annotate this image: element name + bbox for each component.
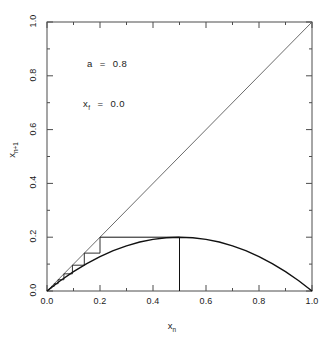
y-tick-label: 0.0 xyxy=(28,283,38,296)
x-axis-label-subscript: n xyxy=(173,326,177,333)
x-tick-label: 0.0 xyxy=(40,296,53,306)
y-tick-label: 0.6 xyxy=(28,122,38,135)
x-tick-label: 0.2 xyxy=(93,296,106,306)
annotation-a-equals: = xyxy=(96,58,110,69)
annotation-fixed-point: xf = 0.0 xyxy=(83,98,125,109)
annotation-xf-subscript: f xyxy=(88,104,90,111)
x-tick-label: 0.4 xyxy=(146,296,159,306)
annotation-xf-equals: = xyxy=(93,98,107,109)
y-tick-label: 0.2 xyxy=(28,230,38,243)
annotation-parameter-a: a = 0.8 xyxy=(87,58,127,69)
annotation-a-symbol: a xyxy=(87,58,93,69)
y-tick-label: 0.4 xyxy=(28,176,38,189)
y-axis-label-subscript: n+1 xyxy=(12,142,19,153)
x-axis-label: xn xyxy=(168,320,176,331)
y-tick-label: 1.0 xyxy=(28,14,38,27)
plot-canvas xyxy=(0,0,332,340)
annotation-a-value: 0.8 xyxy=(113,58,127,69)
y-tick-label: 0.8 xyxy=(28,68,38,81)
annotation-xf-value: 0.0 xyxy=(110,98,124,109)
cobweb-plot-figure: 0.00.20.40.60.81.0 0.00.20.40.60.81.0 xn… xyxy=(0,0,332,340)
x-tick-label: 0.8 xyxy=(252,296,265,306)
y-axis-label: xn+1 xyxy=(6,142,17,158)
y-axis-label-base: x xyxy=(6,153,17,158)
x-tick-label: 0.6 xyxy=(199,296,212,306)
x-tick-label: 1.0 xyxy=(305,296,318,306)
